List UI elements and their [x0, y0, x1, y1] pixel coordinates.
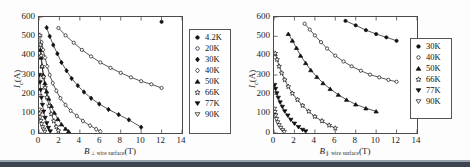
data-point	[334, 54, 337, 57]
series-4-2K	[160, 20, 163, 23]
data-point	[45, 64, 48, 68]
data-point	[51, 81, 54, 85]
plot-svg-left	[39, 17, 182, 133]
legend-label: 66K	[426, 74, 441, 85]
legend-item-30K[interactable]: 30K	[192, 54, 227, 65]
legend-item-50K[interactable]: 50K	[192, 76, 227, 87]
data-point	[75, 114, 78, 118]
x-tick-label: 6	[88, 135, 110, 145]
series-30K	[344, 19, 398, 42]
legend-label: 30K	[205, 54, 220, 65]
legend-item-66K[interactable]: 66K	[413, 74, 448, 85]
y-tick-label: 100	[4, 107, 35, 117]
data-point	[282, 77, 287, 81]
data-point	[279, 71, 284, 75]
data-point	[46, 126, 50, 129]
legend-item-90K[interactable]: 90K	[413, 96, 448, 107]
data-point	[350, 65, 353, 68]
data-point	[119, 71, 122, 74]
data-point	[344, 19, 347, 22]
data-point	[286, 114, 290, 117]
data-point	[342, 60, 345, 63]
legend-marker-icon	[192, 109, 203, 120]
legend-label: 40K	[426, 52, 441, 63]
x-axis-subscript: ⊥ wire surface	[89, 150, 124, 156]
data-point	[52, 43, 55, 47]
data-point	[309, 68, 313, 71]
legend-item-77K[interactable]: 77K	[192, 98, 227, 109]
data-point	[326, 47, 329, 50]
legend-marker-icon	[413, 74, 424, 85]
y-tick-label: 300	[4, 69, 35, 79]
legend-right[interactable]: 30K40K50K66K77K90K	[410, 38, 452, 119]
data-point	[39, 53, 44, 57]
data-point	[378, 76, 381, 79]
x-axis-unit: (T)	[125, 146, 137, 156]
data-point	[196, 68, 200, 73]
legend-marker-icon	[192, 98, 203, 109]
data-point	[81, 119, 84, 123]
data-point	[48, 34, 51, 38]
x-tick-label: 12	[150, 135, 172, 145]
legend-item-66K[interactable]: 66K	[192, 87, 227, 98]
legend-marker-icon	[192, 32, 203, 43]
y-tick-label: 400	[239, 49, 270, 59]
legend-marker-icon	[413, 63, 424, 74]
y-tick-label: 200	[4, 88, 35, 98]
legend-item-77K[interactable]: 77K	[413, 85, 448, 96]
legend-marker-icon	[192, 76, 203, 87]
data-point	[286, 84, 291, 88]
data-point	[94, 127, 97, 131]
data-point	[277, 64, 282, 68]
x-tick-label: 8	[344, 135, 366, 145]
data-point	[43, 55, 46, 59]
legend-item-90K[interactable]: 90K	[192, 109, 227, 120]
data-point	[387, 78, 390, 81]
data-point	[49, 112, 54, 116]
data-point	[417, 45, 421, 49]
legend-item-50K[interactable]: 50K	[413, 63, 448, 74]
data-point	[308, 28, 311, 31]
x-tick-label: 0	[27, 135, 49, 145]
data-point	[59, 122, 63, 125]
legend-label: 77K	[426, 85, 441, 96]
data-point	[290, 91, 295, 95]
data-point	[43, 116, 47, 119]
legend-item-4-2K[interactable]: 4.2K	[192, 32, 227, 43]
y-tick-label: 600	[4, 11, 35, 21]
data-point	[416, 77, 421, 82]
y-tick-label: 200	[239, 88, 270, 98]
data-point	[45, 25, 48, 29]
data-point	[303, 22, 306, 25]
legend-marker-icon	[192, 54, 203, 65]
data-point	[375, 32, 378, 35]
data-point	[368, 73, 371, 76]
x-axis-label-left: B ⊥ wire surface(T)	[60, 146, 160, 156]
legend-label: 90K	[205, 109, 220, 120]
data-point	[278, 101, 282, 104]
x-tick-label: 10	[129, 135, 151, 145]
legend-marker-icon	[192, 43, 203, 54]
plot-area-right	[273, 16, 418, 134]
series-line	[58, 28, 161, 88]
data-point	[98, 102, 101, 106]
data-point	[385, 36, 388, 39]
y-tick-label: 300	[239, 69, 270, 79]
data-point	[319, 41, 322, 44]
x-tick-label: 10	[364, 135, 386, 145]
legend-item-40K[interactable]: 40K	[192, 65, 227, 76]
data-point	[56, 128, 61, 132]
data-point	[48, 130, 52, 133]
data-point	[139, 125, 142, 129]
legend-label: 30K	[426, 41, 441, 52]
x-tick-label: 8	[109, 135, 131, 145]
data-point	[195, 102, 200, 106]
x-tick-label: 14	[405, 135, 427, 145]
legend-marker-icon	[413, 96, 424, 107]
legend-item-20K[interactable]: 20K	[192, 43, 227, 54]
legend-label: 4.2K	[205, 32, 222, 43]
legend-left[interactable]: 4.2K20K30K40K50K66K77K90K	[189, 29, 231, 134]
legend-item-40K[interactable]: 40K	[413, 52, 448, 63]
data-point	[274, 114, 278, 117]
legend-item-30K[interactable]: 30K	[413, 41, 448, 52]
